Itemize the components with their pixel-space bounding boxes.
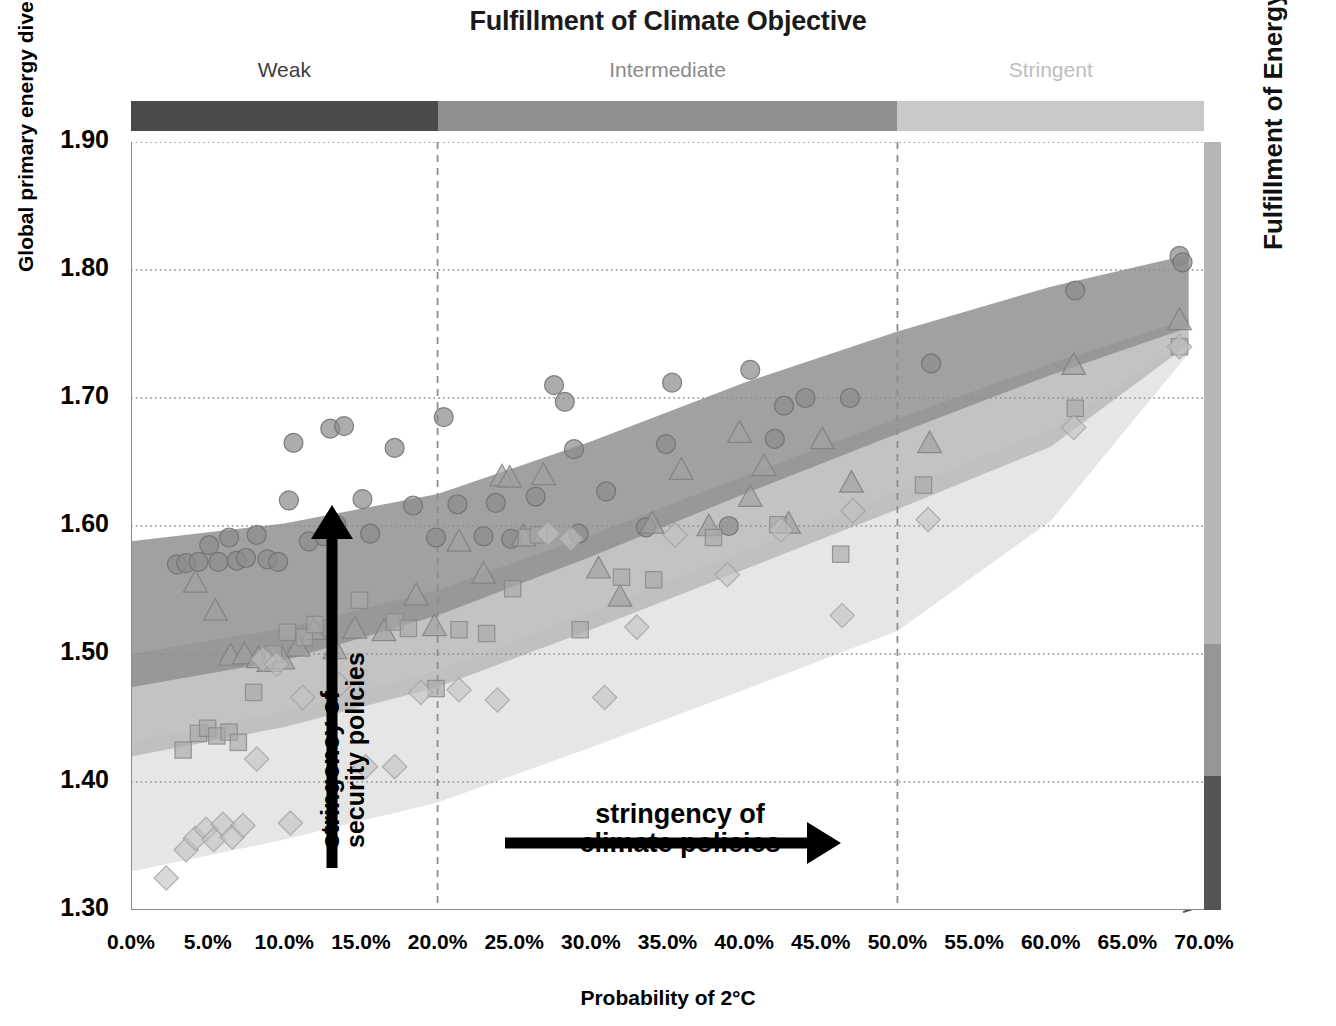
marker-square: [351, 592, 367, 608]
marker-square: [705, 529, 721, 545]
marker-circle: [545, 376, 564, 395]
climate-colorbar-segment-stringent: [897, 101, 1204, 131]
y-tick-label-1.60: 1.60: [0, 509, 109, 538]
vertical-arrow-label-line1: stringency of: [316, 691, 344, 848]
marker-circle: [361, 524, 380, 543]
vertical-arrow-label-line2: security policies: [343, 652, 368, 848]
marker-circle: [663, 373, 682, 392]
marker-square: [613, 569, 629, 585]
climate-objective-colorbar: [131, 101, 1204, 131]
climate-colorbar-segment-weak: [131, 101, 438, 131]
marker-square: [505, 581, 521, 597]
marker-circle: [796, 389, 815, 408]
plot-svg: [131, 142, 1204, 910]
y-tick-label-1.90: 1.90: [0, 125, 109, 154]
marker-circle: [284, 433, 303, 452]
horizontal-arrow-label-line1: stringency of: [595, 799, 765, 829]
plot-area: [131, 142, 1204, 910]
marker-square: [646, 572, 662, 588]
marker-circle: [526, 487, 545, 506]
x-tick-label-70.0%: 70.0%: [1149, 930, 1259, 954]
marker-square: [175, 742, 191, 758]
right-axis-title: Fulfillment of Energy Security Objective: [1258, 0, 1289, 250]
chart-canvas: Fulfillment of Climate Objective Weak In…: [0, 0, 1336, 1026]
horizontal-arrow-label: stringency of climate policies: [520, 800, 840, 858]
marker-circle: [555, 392, 574, 411]
marker-square: [245, 684, 261, 700]
y-tick-label-1.80: 1.80: [0, 253, 109, 282]
marker-circle: [189, 552, 208, 571]
marker-square: [279, 624, 295, 640]
marker-circle: [741, 360, 760, 379]
marker-square: [400, 620, 416, 636]
y-tick-label-1.30: 1.30: [0, 893, 109, 922]
marker-circle: [200, 536, 219, 555]
marker-circle: [404, 496, 423, 515]
marker-circle: [474, 527, 493, 546]
chart-title: Fulfillment of Climate Objective: [0, 6, 1336, 37]
marker-circle: [564, 440, 583, 459]
marker-circle: [335, 417, 354, 436]
marker-square: [915, 477, 931, 493]
marker-circle: [774, 396, 793, 415]
marker-circle: [434, 408, 453, 427]
marker-circle: [597, 482, 616, 501]
marker-circle: [236, 549, 255, 568]
marker-circle: [840, 389, 859, 408]
marker-circle: [448, 495, 467, 514]
marker-square: [451, 622, 467, 638]
marker-circle: [656, 435, 675, 454]
marker-circle: [486, 493, 505, 512]
marker-circle: [385, 438, 404, 457]
marker-square: [230, 734, 246, 750]
marker-circle: [220, 528, 239, 547]
y-tick-label-1.70: 1.70: [0, 381, 109, 410]
y-tick-label-1.40: 1.40: [0, 765, 109, 794]
top-segment-label-weak: Weak: [134, 58, 434, 82]
marker-circle: [765, 429, 784, 448]
marker-square: [478, 625, 494, 641]
vertical-arrow-label: stringency of security policies: [318, 652, 368, 848]
marker-circle: [922, 354, 941, 373]
marker-square: [572, 622, 588, 638]
marker-circle: [279, 491, 298, 510]
marker-square: [1067, 400, 1083, 416]
marker-circle: [427, 528, 446, 547]
marker-square: [833, 546, 849, 562]
y-tick-label-1.50: 1.50: [0, 637, 109, 666]
marker-circle: [269, 552, 288, 571]
marker-circle: [209, 552, 228, 571]
marker-circle: [353, 490, 372, 509]
top-segment-label-stringent: Stringent: [901, 58, 1201, 82]
climate-colorbar-segment-intermediate: [438, 101, 898, 131]
marker-circle: [1173, 253, 1192, 272]
marker-circle: [247, 525, 266, 544]
top-segment-label-intermediate: Intermediate: [518, 58, 818, 82]
marker-circle: [1066, 281, 1085, 300]
x-axis-title: Probability of 2°C: [0, 986, 1336, 1010]
marker-square: [307, 616, 323, 632]
horizontal-arrow-label-line2: climate policies: [579, 828, 780, 858]
